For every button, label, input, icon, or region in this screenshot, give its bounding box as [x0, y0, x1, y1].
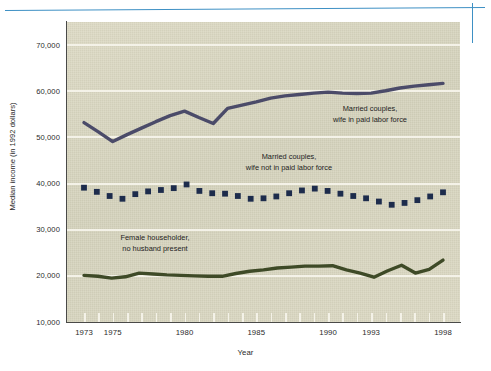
series-marker [145, 188, 151, 194]
annotation-married-wife-in-labor-force: Married couples, wife in paid labor forc… [295, 104, 445, 125]
series-marker [248, 196, 254, 202]
series-marker [196, 188, 202, 194]
series-marker [184, 182, 190, 188]
series-marker [81, 185, 87, 191]
chart-figure: Married couples, wife in paid labor forc… [0, 0, 491, 371]
series-marker [389, 202, 395, 208]
series-marker [235, 193, 241, 199]
series-marker [338, 191, 344, 197]
series-marker [171, 185, 177, 191]
x-tick-label: 1990 [308, 328, 348, 337]
decorative-top-rule [5, 7, 485, 11]
y-axis-title: Median income (in 1992 dollars) [8, 57, 17, 257]
x-tick-label: 1993 [351, 328, 391, 337]
series-marker [94, 189, 100, 195]
series-marker [312, 186, 318, 192]
x-tick-label: 1985 [236, 328, 276, 337]
series-marker [363, 195, 369, 201]
annotation-line-1: Married couples, [199, 152, 379, 163]
series-marker [158, 187, 164, 193]
y-axis-line [66, 21, 67, 323]
series-marker [286, 190, 292, 196]
series-marker [440, 189, 446, 195]
annotation-line-2: no husband present [67, 244, 245, 255]
series-marker [222, 191, 228, 197]
annotation-female-householder: Female householder, no husband present [67, 233, 245, 254]
series-marker [427, 194, 433, 200]
series-marker [414, 197, 420, 203]
annotation-line-1: Married couples, [295, 104, 445, 115]
series-marker [120, 196, 126, 202]
annotation-line-1: Female householder, [67, 233, 245, 244]
series-marker [261, 195, 267, 201]
plot-area: Married couples, wife in paid labor forc… [67, 22, 460, 322]
y-tick-label: 70,000 [0, 41, 60, 50]
y-tick-label: 20,000 [0, 271, 60, 280]
y-tick-label: 10,000 [0, 318, 60, 327]
x-axis-title: Year [0, 348, 491, 357]
x-tick-label: 1975 [93, 328, 133, 337]
annotation-married-wife-not-in-labor-force: Married couples, wife not in paid labor … [199, 152, 379, 173]
series-marker [350, 193, 356, 199]
annotation-line-2: wife not in paid labor force [199, 163, 379, 174]
decorative-right-rule [472, 3, 473, 43]
series-marker [402, 200, 408, 206]
series-marker [132, 191, 138, 197]
series-marker [299, 188, 305, 194]
series-marker [107, 193, 113, 199]
series-marker [325, 188, 331, 194]
series-marker [209, 190, 215, 196]
series-marker [273, 194, 279, 200]
x-tick-label: 1980 [165, 328, 205, 337]
series-marker [376, 199, 382, 205]
x-axis-line [66, 322, 461, 323]
annotation-line-2: wife in paid labor force [295, 115, 445, 126]
series-line [84, 260, 443, 278]
x-tick-label: 1998 [423, 328, 463, 337]
